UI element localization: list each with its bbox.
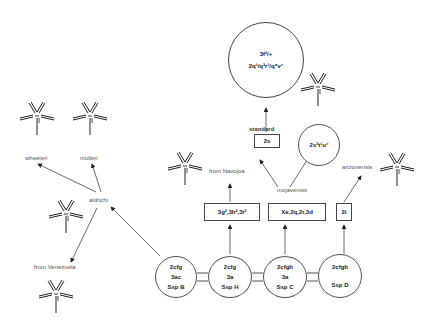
label-mulleri: mulleri bbox=[80, 155, 98, 161]
node-ssp-d-line1: 2cfgh bbox=[332, 264, 348, 270]
small-circle-node: 2s³t¹u⁷ bbox=[298, 124, 340, 166]
node-ssp-b-line3: Ssp B bbox=[167, 284, 184, 290]
chromosome-figure-navojoa bbox=[168, 152, 202, 185]
box-mojavensis: Xe,2q,2r,3d bbox=[268, 203, 326, 221]
node-ssp-b: 2cfg 3ac Ssp B bbox=[155, 256, 197, 298]
box-navojoa: 3g²,3h²,3i² bbox=[204, 203, 260, 221]
node-ssp-c: 2cfgh 3a Ssp C bbox=[263, 256, 307, 298]
standard-label: standard bbox=[249, 126, 274, 132]
box-arizonensis-text: 2i bbox=[341, 209, 346, 215]
box-navojoa-text: 3g²,3h²,3i² bbox=[218, 209, 246, 215]
node-ssp-h: 2cfg 3a Ssp H bbox=[208, 256, 252, 298]
label-arizonensis: arizonensis bbox=[342, 164, 372, 170]
node-ssp-b-line2: 3ac bbox=[171, 274, 181, 280]
node-ssp-h-line1: 2cfg bbox=[224, 264, 236, 270]
node-ssp-h-line3: Ssp H bbox=[221, 284, 238, 290]
chromosome-figure-venezuela bbox=[39, 280, 73, 313]
node-ssp-h-line2: 3a bbox=[227, 274, 234, 280]
label-aldrichi: aldrichi bbox=[89, 197, 108, 203]
chromosome-figure-standard bbox=[301, 73, 335, 106]
node-ssp-b-line1: 2cfg bbox=[170, 264, 182, 270]
node-ssp-c-line1: 2cfgh bbox=[277, 264, 293, 270]
box-2s-text: 2s bbox=[264, 138, 271, 144]
node-ssp-c-line3: Ssp C bbox=[276, 284, 293, 290]
node-ssp-d-line2: Ssp D bbox=[331, 282, 348, 288]
box-mojavensis-text: Xe,2q,2r,3d bbox=[281, 209, 313, 215]
label-mojavensis: mojavensis bbox=[277, 187, 307, 193]
node-ssp-d: 2cfgh Ssp D bbox=[318, 254, 362, 298]
chromosome-figure-aldrichi bbox=[49, 200, 83, 233]
chromosome-figure-arizonensis bbox=[380, 153, 414, 186]
label-from-navojoa: from Navojoa bbox=[209, 168, 245, 174]
node-ssp-c-line2: 3a bbox=[282, 274, 289, 280]
chromosome-figure-wheeleri bbox=[20, 102, 54, 135]
box-arizonensis: 2i bbox=[336, 203, 352, 221]
chromosome-figure-mulleri bbox=[73, 102, 107, 135]
big-circle-node: 3f²/+ 2q¹/q³r¹/q⁵v⁷ bbox=[228, 22, 304, 98]
big-circle-line1: 3f²/+ bbox=[260, 51, 273, 57]
box-2s: 2s bbox=[254, 134, 280, 148]
label-wheeleri: wheeleri bbox=[25, 155, 47, 161]
big-circle-line2: 2q¹/q³r¹/q⁵v⁷ bbox=[249, 63, 284, 69]
small-circle-text: 2s³t¹u⁷ bbox=[310, 142, 329, 148]
label-from-venezuela: from Venezuela bbox=[34, 264, 76, 270]
